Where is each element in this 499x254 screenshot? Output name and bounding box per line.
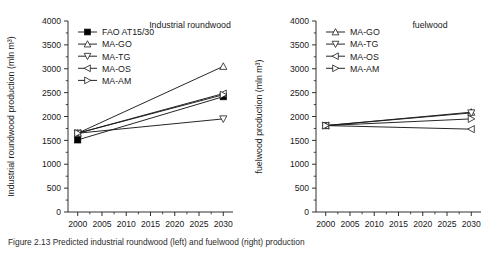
series-line [326,126,472,130]
y-tick-label: 1500 [42,136,61,146]
series-line [78,95,224,133]
legend-label: MA-TG [350,39,378,49]
panel-title: Industrial roundwood [149,20,231,30]
triangle-right-marker [333,65,339,72]
x-tick-label: 2010 [365,219,384,229]
x-tick-label: 2020 [413,219,432,229]
x-tick-label: 2005 [340,219,359,229]
y-tick-label: 4000 [290,16,309,26]
triangle-left-marker [332,53,338,60]
square-marker [85,29,91,35]
legend-item[interactable]: MA-GO [78,39,132,49]
x-tick-label: 2020 [165,219,184,229]
series-ma-os [74,90,226,137]
y-tick-label: 2500 [42,88,61,98]
marker-filled-square [85,29,91,35]
marker-triangle-left [468,126,475,133]
y-axis-label: fuelwood production (mln m³) [254,59,264,173]
y-tick-label: 0 [304,207,309,217]
marker-triangle-left [84,65,90,72]
legend-item[interactable]: MA-GO [326,27,380,37]
series-line [78,97,224,140]
x-tick-label: 2000 [316,219,335,229]
triangle-right-marker [85,77,91,84]
y-tick-label: 500 [295,183,310,193]
legend-label: FAO AT15/30 [102,27,154,37]
y-axis-label: Industrial roundwood production (mln m³) [6,36,16,196]
legend-item[interactable]: MA-OS [326,52,379,62]
x-tick-label: 2030 [214,219,233,229]
panel-industrial-roundwood: 0500100015002000250030003500400020002005… [6,16,233,228]
y-tick-label: 2500 [290,88,309,98]
y-tick-label: 1000 [290,159,309,169]
figure-container: 0500100015002000250030003500400020002005… [0,0,499,254]
legend-label: MA-AM [102,76,131,86]
square-marker [75,137,81,143]
y-tick-label: 2000 [290,112,309,122]
marker-triangle-right [333,65,339,72]
triangle-left-marker [84,65,90,72]
x-tick-label: 2025 [189,219,208,229]
legend-item[interactable]: MA-TG [326,39,378,49]
legend-label: MA-OS [102,64,131,74]
y-tick-label: 1000 [42,159,61,169]
dual-line-chart: 0500100015002000250030003500400020002005… [0,0,499,254]
y-tick-label: 3000 [290,64,309,74]
legend: MA-GOMA-TGMA-OSMA-AM [326,27,380,73]
legend-item[interactable]: MA-AM [326,64,379,74]
legend-item[interactable]: MA-TG [78,52,130,62]
y-tick-label: 4000 [42,16,61,26]
y-tick-label: 3500 [290,40,309,50]
panel-title: fuelwood [412,20,447,30]
series-fao-at15-30 [75,94,227,143]
series-line [326,113,472,126]
triangle-left-marker [468,126,475,133]
triangle-up-marker [220,63,227,70]
marker-filled-square [75,137,81,143]
x-tick-label: 2010 [117,219,136,229]
y-tick-label: 1500 [290,136,309,146]
x-tick-label: 2015 [141,219,160,229]
legend: FAO AT15/30MA-GOMA-TGMA-OSMA-AM [78,27,154,85]
x-tick-label: 2005 [92,219,111,229]
x-tick-label: 2025 [437,219,456,229]
series-line [78,119,224,133]
legend-label: MA-AM [350,64,379,74]
x-tick-label: 2000 [68,219,87,229]
y-tick-label: 500 [47,183,62,193]
marker-triangle-up [220,63,227,70]
legend-label: MA-GO [102,39,132,49]
series-line [326,119,472,126]
figure-caption: Figure 2.13 Predicted industrial roundwo… [8,237,492,247]
y-tick-label: 3000 [42,64,61,74]
series-ma-tg [74,116,227,137]
x-tick-label: 2030 [462,219,481,229]
marker-triangle-right [85,77,91,84]
marker-triangle-left [332,53,338,60]
legend-label: MA-TG [102,52,130,62]
y-tick-label: 0 [56,207,61,217]
legend-item[interactable]: FAO AT15/30 [78,27,154,37]
legend-item[interactable]: MA-OS [78,64,131,74]
x-tick-label: 2015 [389,219,408,229]
panel-fuelwood: 0500100015002000250030003500400020002005… [254,16,481,228]
legend-item[interactable]: MA-AM [78,76,131,86]
y-tick-label: 3500 [42,40,61,50]
legend-label: MA-OS [350,52,379,62]
y-tick-label: 2000 [42,112,61,122]
legend-label: MA-GO [350,27,380,37]
series-ma-am [75,91,227,137]
